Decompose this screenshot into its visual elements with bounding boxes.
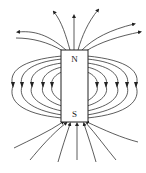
right-field-loops <box>87 56 138 118</box>
north-field-lines <box>16 10 140 51</box>
north-pole-label: N <box>71 54 78 64</box>
bar-magnet: N S <box>61 50 88 122</box>
south-pole-label: S <box>72 109 77 119</box>
south-field-lines <box>14 122 138 162</box>
magnet-field-diagram: N S <box>0 0 146 173</box>
left-field-loops <box>11 56 62 118</box>
